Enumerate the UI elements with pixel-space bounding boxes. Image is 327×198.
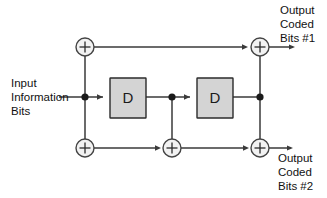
junction-dot-right-tap bbox=[256, 93, 263, 100]
arrow-output1-tip bbox=[289, 44, 295, 49]
register-d1-label: D bbox=[123, 89, 134, 106]
circuit-schematic: D D bbox=[0, 0, 327, 198]
convolutional-encoder-diagram: D D bbox=[0, 0, 327, 198]
output1-label-line1: Output bbox=[280, 4, 315, 16]
arrow-output2-tip bbox=[287, 145, 293, 150]
input-label-line3: Bits bbox=[11, 105, 30, 117]
junction-dot-input-tap bbox=[81, 93, 88, 100]
output2-label-line3: Bits #2 bbox=[278, 180, 313, 192]
label-group: Input Information Bits Output Coded Bits… bbox=[11, 4, 315, 192]
xor-top-left bbox=[76, 38, 94, 56]
arrow-into-d2 bbox=[184, 94, 190, 100]
output2-label-line2: Coded bbox=[278, 166, 312, 178]
junction-dot-middle-tap bbox=[168, 93, 175, 100]
register-d1: D bbox=[110, 78, 146, 118]
xor-bottom-left bbox=[76, 139, 94, 157]
arrow-into-d1 bbox=[97, 94, 103, 100]
arrow-into-xor-top-right bbox=[242, 44, 248, 50]
xor-bottom-right bbox=[251, 139, 269, 157]
register-d2-label: D bbox=[210, 89, 221, 106]
arrow-into-xor-bottom-mid bbox=[155, 145, 161, 151]
output1-label-line2: Coded bbox=[280, 18, 314, 30]
output2-label-line1: Output bbox=[278, 152, 313, 164]
xor-top-right bbox=[251, 38, 269, 56]
arrow-into-xor-bottom-right bbox=[243, 145, 249, 151]
register-d2: D bbox=[197, 78, 233, 118]
input-label-line2: Information bbox=[11, 91, 69, 103]
output1-label-line3: Bits #1 bbox=[280, 32, 315, 44]
xor-bottom-mid bbox=[163, 139, 181, 157]
input-label-line1: Input bbox=[11, 77, 37, 89]
